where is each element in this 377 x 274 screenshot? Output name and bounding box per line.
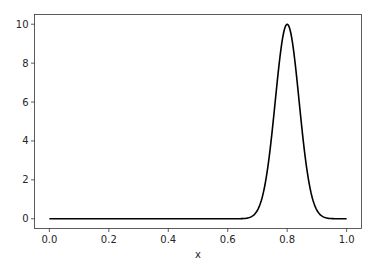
x-tick-label: 0.0 (41, 234, 57, 245)
x-axis-label: x (195, 249, 201, 260)
x-tick-label: 0.2 (101, 234, 117, 245)
x-tick-label: 1.0 (339, 234, 355, 245)
line-chart: 0.00.20.40.60.81.0 0246810 x (0, 0, 377, 274)
x-axis: 0.00.20.40.60.81.0 (41, 229, 354, 245)
y-tick-label: 6 (22, 97, 28, 108)
y-tick-label: 8 (22, 58, 28, 69)
y-tick-label: 4 (22, 135, 28, 146)
plot-area (49, 24, 346, 219)
y-axis: 0246810 (16, 19, 35, 225)
x-tick-label: 0.4 (160, 234, 176, 245)
y-tick-label: 0 (22, 213, 28, 224)
y-tick-label: 2 (22, 174, 28, 185)
y-tick-label: 10 (16, 19, 29, 30)
x-tick-label: 0.6 (220, 234, 236, 245)
x-tick-label: 0.8 (279, 234, 295, 245)
series-line (49, 24, 346, 219)
